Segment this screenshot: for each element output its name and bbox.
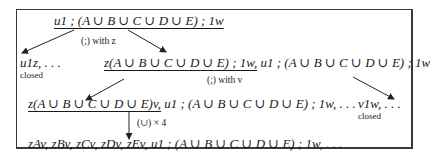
left-branch-status: closed (20, 70, 43, 80)
edge-label-with-v: (;) with v (207, 75, 242, 86)
middle-rest-formula: u1 ; (A ∪ B ∪ C ∪ D ∪ E) ; 1w (257, 55, 430, 70)
edge-label-union-x4: (∪) × 4 (137, 118, 166, 129)
right-branch-node: v1w, . . . (358, 96, 401, 111)
middle-active-formula: z(A ∪ B ∪ C ∪ D ∪ E) ; 1w, (104, 55, 257, 70)
level3-rest-formula: u1 ; (A ∪ B ∪ C ∪ D ∪ E) ; 1w, . . . (161, 96, 356, 111)
root-node: u1 ; (A ∪ B ∪ C ∪ D ∪ E) ; 1w (54, 13, 224, 28)
level4-node: zAv, zBv, zCv, zDv, zEv, u1 ; (A ∪ B ∪ C… (28, 136, 342, 151)
root-formula: u1 ; (A ∪ B ∪ C ∪ D ∪ E) ; 1w (54, 13, 224, 28)
edge-label-with-z: (;) with z (81, 36, 116, 47)
middle-branch-node: z(A ∪ B ∪ C ∪ D ∪ E) ; 1w, u1 ; (A ∪ B ∪… (104, 55, 430, 70)
level3-active-formula: z(A ∪ B ∪ C ∪ D ∪ E)v, (28, 96, 161, 111)
right-branch-status: closed (358, 111, 381, 121)
left-branch-node: u1z, . . . (20, 55, 61, 70)
level3-node: z(A ∪ B ∪ C ∪ D ∪ E)v, u1 ; (A ∪ B ∪ C ∪… (28, 96, 356, 111)
